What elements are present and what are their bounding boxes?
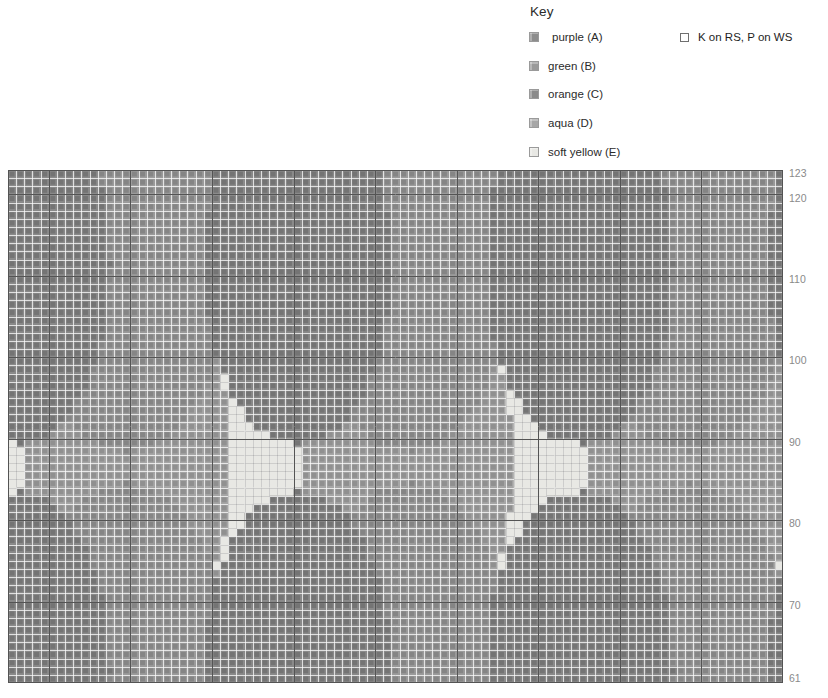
key-label-knit-rs-purl-ws: K on RS, P on WS: [698, 31, 792, 43]
key-label-purple: purple (A): [552, 31, 603, 43]
stitch-chart-grid[interactable]: [8, 170, 783, 683]
key-item-soft-yellow: soft yellow (E): [529, 137, 699, 166]
key-label-green: green (B): [548, 60, 596, 72]
row-number-axis: 12312011010090807061: [789, 166, 828, 686]
row-number-110: 110: [789, 274, 806, 285]
key-symbol-list: K on RS, P on WS: [680, 23, 828, 52]
row-number-61: 61: [789, 673, 801, 684]
swatch-soft-yellow-e: [529, 147, 539, 157]
row-number-123: 123: [789, 168, 807, 179]
swatch-purple-a: [529, 32, 539, 42]
row-number-70: 70: [789, 600, 801, 611]
row-number-120: 120: [789, 193, 807, 204]
row-number-100: 100: [789, 355, 807, 366]
empty-square-icon: [680, 33, 689, 42]
swatch-aqua-d: [529, 118, 539, 128]
row-number-80: 80: [789, 518, 801, 529]
chart-page: Key purple (A) green (B) orange (C) aqua…: [0, 0, 828, 698]
swatch-green-b: [529, 61, 539, 71]
key-item-orange: orange (C): [529, 80, 699, 109]
key-item-aqua: aqua (D): [529, 109, 699, 138]
key-label-orange: orange (C): [548, 88, 603, 100]
key-title: Key: [530, 4, 824, 19]
key-item-knit-rs-purl-ws: K on RS, P on WS: [680, 23, 828, 52]
key-label-aqua: aqua (D): [548, 117, 593, 129]
key-item-green: green (B): [529, 52, 699, 81]
chart-area: 12312011010090807061: [0, 166, 828, 686]
key-color-list: purple (A) green (B) orange (C) aqua (D)…: [529, 23, 699, 166]
key-label-soft-yellow: soft yellow (E): [548, 146, 620, 158]
key-item-purple: purple (A): [529, 23, 699, 52]
row-number-90: 90: [789, 437, 801, 448]
key-panel: Key purple (A) green (B) orange (C) aqua…: [529, 4, 824, 162]
swatch-orange-c: [529, 89, 539, 99]
